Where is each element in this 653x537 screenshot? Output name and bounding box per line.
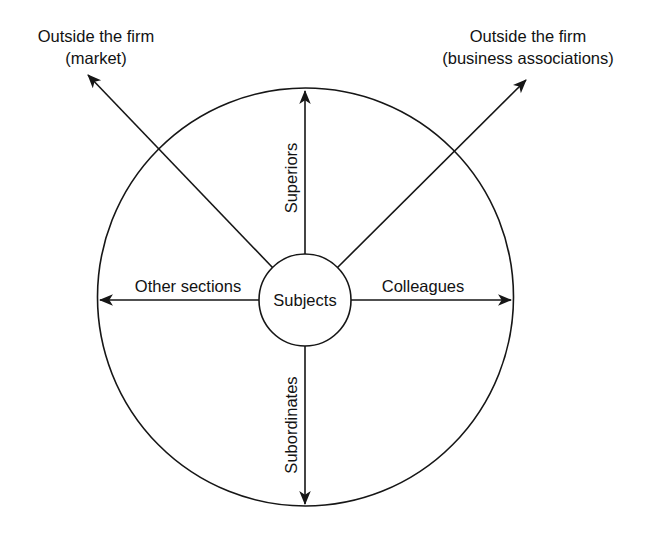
spoke-label-colleagues: Colleagues: [382, 277, 465, 295]
external-arrow-business-associations: [338, 80, 527, 268]
spoke-label-superiors: Superiors: [282, 143, 300, 214]
external-label-business-associations-line2: (business associations): [442, 49, 614, 67]
external-arrow-market: [88, 75, 273, 268]
external-label-market-line1: Outside the firm: [38, 27, 154, 45]
center-label-subjects: Subjects: [273, 291, 336, 309]
external-label-market-line2: (market): [65, 49, 126, 67]
spoke-label-other-sections: Other sections: [135, 277, 241, 295]
spoke-label-subordinates: Subordinates: [282, 376, 300, 473]
caption-partial: [36, 532, 616, 537]
radial-diagram: Subjects Superiors Subordinates Other se…: [0, 0, 653, 537]
external-label-business-associations-line1: Outside the firm: [470, 27, 586, 45]
diagram-canvas: Subjects Superiors Subordinates Other se…: [0, 0, 653, 537]
